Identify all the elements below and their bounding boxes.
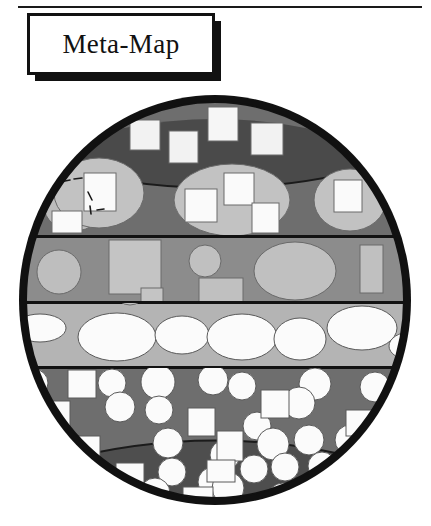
token-ellipse (155, 316, 209, 354)
token-square (334, 180, 362, 212)
token-square (208, 107, 238, 141)
header-rule (18, 6, 422, 8)
title-plate: Meta-Map (27, 13, 213, 73)
token-circle (189, 245, 221, 277)
token-square (207, 460, 235, 482)
token-square (252, 203, 279, 233)
token-ellipse (78, 313, 156, 361)
token-square (217, 431, 243, 461)
token-square (224, 173, 254, 205)
title-plate-face: Meta-Map (27, 13, 215, 75)
band-divider (12, 301, 418, 304)
token-ellipse (274, 318, 326, 360)
band-divider (12, 235, 418, 238)
token-circle (396, 378, 418, 406)
token-circle (141, 365, 175, 399)
token-square (188, 408, 215, 436)
token-square (68, 370, 96, 398)
token-circle (240, 455, 268, 483)
token-square (52, 211, 82, 233)
token-square (251, 123, 283, 155)
token-ellipse (254, 242, 336, 300)
token-square (169, 131, 198, 163)
token-ellipse (207, 314, 277, 360)
token-square (261, 390, 289, 418)
token-square (360, 245, 383, 293)
token-circle (198, 365, 228, 395)
token-circle (105, 392, 135, 422)
token-ellipse (327, 306, 397, 350)
token-circle (228, 372, 256, 400)
token-square (130, 120, 160, 150)
meta-map-svg (12, 88, 418, 512)
meta-map-figure (12, 88, 418, 512)
token-circle (153, 428, 183, 458)
page-title: Meta-Map (62, 29, 179, 60)
token-circle (37, 250, 81, 294)
token-circle (145, 396, 173, 424)
token-circle (294, 425, 324, 455)
token-square (185, 189, 217, 222)
token-circle (271, 453, 299, 481)
token-square (199, 278, 243, 304)
token-square (109, 240, 161, 294)
